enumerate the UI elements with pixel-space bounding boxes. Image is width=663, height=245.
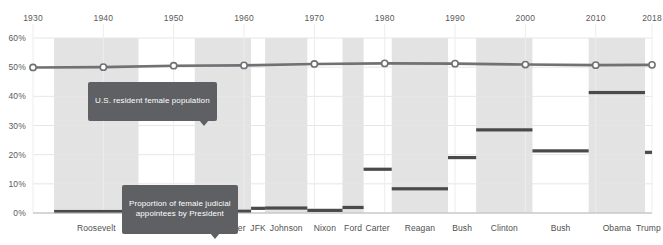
x-axis-tick-label: 2000 <box>516 13 536 23</box>
president-label: Trump <box>636 223 661 233</box>
appointee-bar <box>392 187 448 190</box>
x-axis-tick-label: 2010 <box>586 13 606 23</box>
president-label: Clinton <box>491 223 518 233</box>
appointee-bar <box>448 156 476 159</box>
population-marker <box>593 62 599 68</box>
population-marker <box>452 61 458 67</box>
x-axis-tick-label: 1980 <box>375 13 395 23</box>
appointee-bar <box>645 151 652 154</box>
y-axis-tick-label: 50% <box>2 62 26 72</box>
appointee-bar <box>343 206 364 209</box>
x-axis-tick-label: 1990 <box>445 13 465 23</box>
y-axis-tick-label: 10% <box>2 179 26 189</box>
population-callout: U.S. resident female population <box>88 82 217 121</box>
population-marker <box>311 61 317 67</box>
president-label: Roosevelt <box>77 223 116 233</box>
appointee-bar <box>476 128 532 131</box>
appointee-bar <box>307 209 342 212</box>
x-axis-tick-label: 1970 <box>305 13 325 23</box>
x-axis-tick-label: 1960 <box>234 13 254 23</box>
y-axis-tick-label: 20% <box>2 150 26 160</box>
president-label: Carter <box>366 223 390 233</box>
population-marker <box>241 62 247 68</box>
population-marker <box>171 63 177 69</box>
appointee-bar <box>265 206 307 209</box>
callout-tail <box>199 120 209 126</box>
population-marker <box>382 60 388 66</box>
population-marker <box>100 64 106 70</box>
appointees-callout-text: Proportion of female judicial appointees… <box>129 199 231 219</box>
population-marker <box>649 62 655 68</box>
chart-container: 1930194019501960197019801990200020102018… <box>0 0 663 245</box>
population-marker <box>30 64 36 70</box>
callout-tail <box>210 233 220 239</box>
appointees-callout: Proportion of female judicial appointees… <box>122 185 238 234</box>
chart-plot-area <box>0 0 663 245</box>
president-label: JFK <box>250 223 265 233</box>
y-axis-tick-label: 40% <box>2 91 26 101</box>
appointee-bar <box>251 207 265 210</box>
president-label: Bush <box>551 223 571 233</box>
x-axis-tick-label: 2018 <box>642 13 662 23</box>
appointee-bar <box>532 149 588 152</box>
president-label: Johnson <box>270 223 303 233</box>
y-axis-tick-label: 0% <box>2 208 26 218</box>
president-label: Bush <box>452 223 472 233</box>
x-axis-tick-label: 1930 <box>23 13 43 23</box>
president-label: Reagan <box>405 223 435 233</box>
x-axis-tick-label: 1950 <box>164 13 184 23</box>
population-marker <box>522 61 528 67</box>
president-label: Ford <box>344 223 362 233</box>
y-axis-tick-label: 60% <box>2 33 26 43</box>
appointee-bar <box>589 91 645 94</box>
president-label: Nixon <box>314 223 336 233</box>
president-label: Obama <box>603 223 631 233</box>
y-axis-tick-label: 30% <box>2 121 26 131</box>
appointee-bar <box>364 168 392 171</box>
population-callout-text: U.S. resident female population <box>95 96 210 105</box>
x-axis-tick-label: 1940 <box>93 13 113 23</box>
